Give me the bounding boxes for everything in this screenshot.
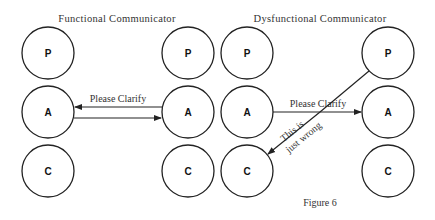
dysfunctional-message: Please Clarify — [290, 98, 346, 109]
crossed-message: This is just wrong — [275, 110, 323, 155]
functional-message: Please Clarify — [90, 93, 146, 104]
functional-title: Functional Communicator — [58, 13, 176, 24]
state-label-p: P — [45, 48, 52, 59]
state-label-c: C — [384, 166, 391, 177]
state-label-c: C — [44, 166, 51, 177]
state-label-a: A — [44, 107, 51, 118]
ego-state-diagram: Functional Communicator Dysfunctional Co… — [0, 0, 435, 220]
state-label-a: A — [384, 107, 391, 118]
state-label-p: P — [185, 48, 192, 59]
state-label-p: P — [385, 48, 392, 59]
dysfunctional-receiver-column: P A C — [362, 27, 414, 197]
state-label-p: P — [244, 48, 251, 59]
state-label-c: C — [243, 166, 250, 177]
state-label-a: A — [184, 107, 191, 118]
figure-caption: Figure 6 — [303, 197, 337, 208]
dysfunctional-sender-column: P A C — [221, 27, 273, 197]
functional-receiver-column: P A C — [162, 27, 214, 197]
state-label-c: C — [184, 166, 191, 177]
state-label-a: A — [243, 107, 250, 118]
functional-sender-column: P A C — [22, 27, 74, 197]
dysfunctional-title: Dysfunctional Communicator — [254, 13, 387, 24]
